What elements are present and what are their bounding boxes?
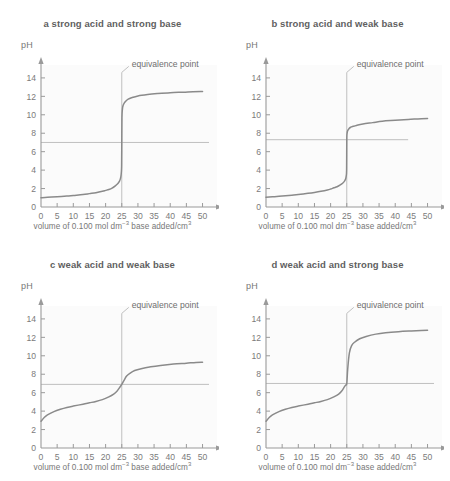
- x-tick-label: 40: [165, 211, 175, 221]
- x-tick-label: 15: [85, 452, 95, 462]
- x-tick-label: 10: [69, 452, 79, 462]
- panel-d-svg: equivalence point02468101214051015202530…: [239, 293, 444, 478]
- x-tick-label: 10: [294, 452, 304, 462]
- x-tick-label: 15: [310, 211, 320, 221]
- y-tick-label: 10: [251, 110, 261, 120]
- y-tick-label: 4: [31, 406, 36, 416]
- y-axis-arrow: [38, 57, 43, 64]
- y-tick-label: 2: [256, 184, 261, 194]
- x-tick-label: 5: [280, 211, 285, 221]
- x-tick-label: 5: [55, 452, 60, 462]
- x-tick-label: 30: [133, 452, 143, 462]
- x-tick-label: 10: [69, 211, 79, 221]
- x-tick-label: 20: [326, 452, 336, 462]
- y-tick-label: 0: [256, 202, 261, 212]
- y-tick-label: 14: [251, 314, 261, 324]
- x-tick-label: 40: [390, 452, 400, 462]
- panel-c-title: c weak acid and weak base: [0, 259, 225, 270]
- panel-d: d weak acid and strong base pH equivalen…: [225, 241, 450, 481]
- x-axis-arrow: [216, 204, 219, 209]
- y-tick-label: 2: [31, 425, 36, 435]
- x-tick-label: 50: [198, 211, 208, 221]
- x-tick-label: 40: [390, 211, 400, 221]
- y-tick-label: 2: [31, 184, 36, 194]
- y-tick-label: 12: [26, 333, 36, 343]
- x-tick-label: 50: [423, 452, 433, 462]
- y-tick-label: 0: [256, 443, 261, 453]
- equivalence-point-annotation: equivalence point: [357, 59, 425, 69]
- y-tick-label: 0: [31, 202, 36, 212]
- panel-d-y-axis-label: pH: [246, 281, 258, 291]
- plot-background: [41, 65, 217, 207]
- y-tick-label: 6: [31, 388, 36, 398]
- x-tick-label: 20: [101, 452, 111, 462]
- y-tick-label: 0: [31, 443, 36, 453]
- x-tick-label: 40: [165, 452, 175, 462]
- y-tick-label: 6: [256, 147, 261, 157]
- y-tick-label: 4: [256, 406, 261, 416]
- panel-a: a strong acid and strong base pH equival…: [0, 0, 225, 241]
- panel-a-x-axis-label: volume of 0.100 mol dm−3 base added/cm3: [0, 222, 225, 231]
- x-tick-label: 30: [358, 452, 368, 462]
- panel-c-x-axis-label: volume of 0.100 mol dm−3 base added/cm3: [0, 463, 225, 472]
- panel-d-plot: equivalence point02468101214051015202530…: [239, 293, 444, 478]
- x-axis-arrow: [441, 445, 444, 450]
- x-axis-arrow: [441, 204, 444, 209]
- x-tick-label: 35: [149, 211, 159, 221]
- x-tick-label: 15: [310, 452, 320, 462]
- panel-a-plot: equivalence point02468101214051015202530…: [14, 52, 219, 237]
- equivalence-point-annotation: equivalence point: [357, 300, 425, 310]
- panel-d-x-axis-label: volume of 0.100 mol dm−3 base added/cm3: [225, 463, 450, 472]
- x-tick-label: 0: [264, 452, 269, 462]
- panel-b-y-axis-label: pH: [246, 40, 258, 50]
- x-tick-label: 35: [374, 211, 384, 221]
- panel-a-title: a strong acid and strong base: [0, 18, 225, 29]
- x-tick-label: 0: [39, 452, 44, 462]
- y-tick-label: 12: [26, 92, 36, 102]
- y-tick-label: 6: [256, 388, 261, 398]
- y-tick-label: 8: [31, 369, 36, 379]
- x-tick-label: 50: [423, 211, 433, 221]
- panel-b-svg: equivalence point02468101214051015202530…: [239, 52, 444, 237]
- y-tick-label: 4: [31, 165, 36, 175]
- panel-b: b strong acid and weak base pH equivalen…: [225, 0, 450, 241]
- x-tick-label: 5: [280, 452, 285, 462]
- y-tick-label: 12: [251, 333, 261, 343]
- x-tick-label: 20: [326, 211, 336, 221]
- panel-a-svg: equivalence point02468101214051015202530…: [14, 52, 219, 237]
- panel-a-y-axis-label: pH: [21, 40, 33, 50]
- x-tick-label: 20: [101, 211, 111, 221]
- panel-b-title: b strong acid and weak base: [225, 18, 450, 29]
- y-tick-label: 14: [251, 73, 261, 83]
- y-tick-label: 6: [31, 147, 36, 157]
- plot-background: [41, 306, 217, 448]
- y-tick-label: 8: [31, 128, 36, 138]
- panel-d-title: d weak acid and strong base: [225, 259, 450, 270]
- panel-c-svg: equivalence point02468101214051015202530…: [14, 293, 219, 478]
- x-tick-label: 30: [358, 211, 368, 221]
- x-tick-label: 35: [149, 452, 159, 462]
- y-axis-arrow: [263, 298, 268, 305]
- y-tick-label: 10: [26, 110, 36, 120]
- plot-background: [266, 306, 442, 448]
- panel-c: c weak acid and weak base pH equivalence…: [0, 241, 225, 481]
- y-tick-label: 10: [26, 351, 36, 361]
- y-axis-arrow: [38, 298, 43, 305]
- equivalence-point-annotation: equivalence point: [132, 300, 200, 310]
- x-tick-label: 15: [85, 211, 95, 221]
- x-tick-label: 0: [264, 211, 269, 221]
- y-tick-label: 8: [256, 369, 261, 379]
- y-tick-label: 14: [26, 314, 36, 324]
- y-tick-label: 4: [256, 165, 261, 175]
- equivalence-point-annotation: equivalence point: [132, 59, 200, 69]
- x-tick-label: 5: [55, 211, 60, 221]
- y-tick-label: 10: [251, 351, 261, 361]
- panel-b-x-axis-label: volume of 0.100 mol dm−3 base added/cm3: [225, 222, 450, 231]
- y-tick-label: 2: [256, 425, 261, 435]
- y-axis-arrow: [263, 57, 268, 64]
- y-tick-label: 8: [256, 128, 261, 138]
- x-tick-label: 30: [133, 211, 143, 221]
- y-tick-label: 14: [26, 73, 36, 83]
- x-tick-label: 10: [294, 211, 304, 221]
- x-tick-label: 0: [39, 211, 44, 221]
